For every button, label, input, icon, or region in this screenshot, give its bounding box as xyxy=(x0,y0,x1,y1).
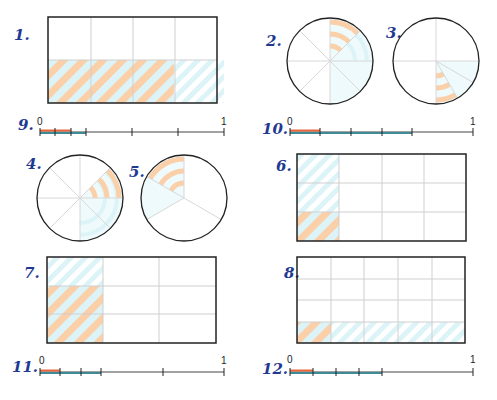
exercise-5-circle xyxy=(131,145,238,252)
exercise-8-rectangle xyxy=(297,257,465,343)
number-line-12-start: 0 xyxy=(287,354,293,365)
exercise-10-number-line: 0 1 xyxy=(287,116,476,136)
number-line-10-end: 1 xyxy=(470,116,476,127)
number-line-10-start: 0 xyxy=(287,116,293,127)
number-line-9-start: 0 xyxy=(37,116,43,127)
number-line-9-end: 1 xyxy=(221,116,227,127)
exercise-1-rectangle xyxy=(48,17,224,103)
exercise-12-number-line: 0 1 xyxy=(287,354,476,376)
number-line-12-end: 1 xyxy=(470,354,476,365)
worksheet-canvas: 0 1 0 1 0 1 xyxy=(0,0,497,400)
exercise-4-circle xyxy=(25,143,135,253)
exercise-11-number-line: 0 1 xyxy=(39,355,227,376)
exercise-3-circle xyxy=(383,8,490,115)
exercise-7-rectangle xyxy=(47,257,216,343)
exercise-6-rectangle xyxy=(297,154,466,241)
number-line-11-end: 1 xyxy=(221,355,227,366)
exercise-9-number-line: 0 1 xyxy=(37,116,227,136)
exercise-2-circle xyxy=(287,18,373,104)
number-line-11-start: 0 xyxy=(39,355,45,366)
